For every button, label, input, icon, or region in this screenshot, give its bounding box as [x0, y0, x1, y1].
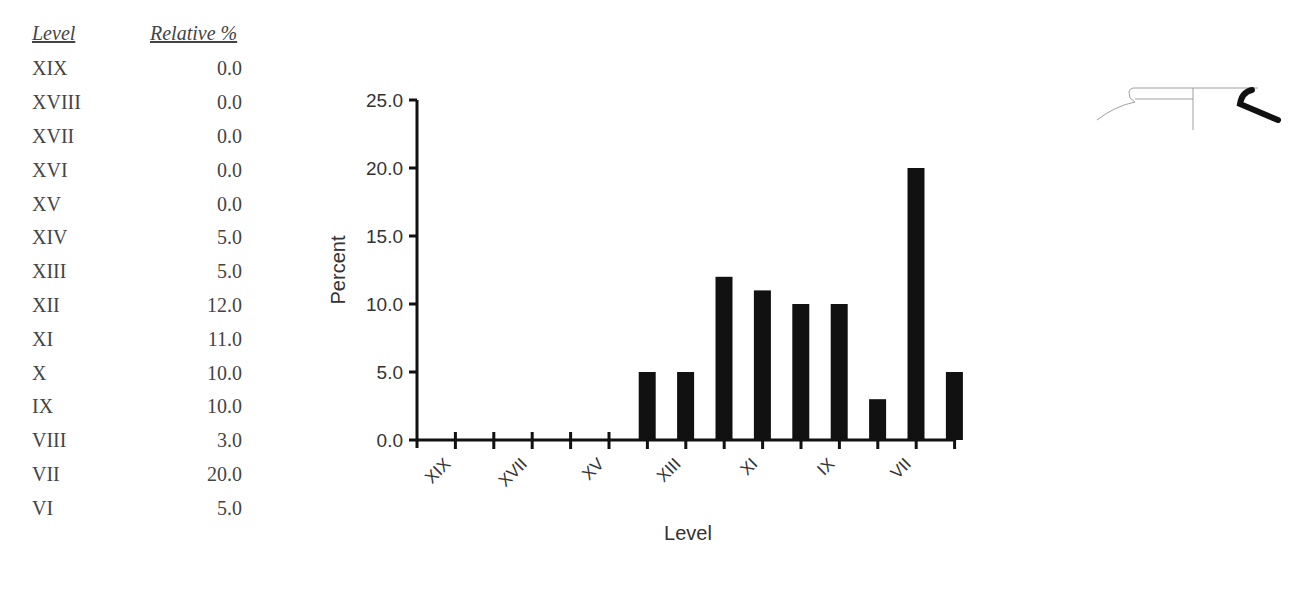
- y-tick-label: 10.0: [366, 294, 403, 315]
- bar: [754, 290, 771, 440]
- bar: [792, 304, 809, 440]
- bar: [639, 372, 656, 440]
- y-tick-label: 0.0: [377, 430, 403, 451]
- x-tick-label: XI: [737, 454, 762, 479]
- x-tick-label: XV: [578, 454, 608, 484]
- x-axis: XIXXVIIXVXIIIXIIXVII: [417, 432, 956, 491]
- x-tick-label: XIII: [653, 454, 684, 485]
- bars: [639, 168, 963, 440]
- bar: [908, 168, 925, 440]
- x-tick-label: XIX: [421, 454, 454, 487]
- rim-sherd-profile-drawing: [1090, 80, 1300, 140]
- x-tick-label: XVII: [495, 454, 531, 490]
- y-axis-label: Percent: [327, 235, 349, 304]
- x-axis-label: Level: [664, 522, 712, 544]
- y-tick-label: 15.0: [366, 226, 403, 247]
- y-tick-label: 25.0: [366, 90, 403, 111]
- bar: [677, 372, 694, 440]
- x-tick-label: VII: [887, 454, 915, 482]
- x-tick-label: IX: [813, 454, 838, 479]
- y-tick-label: 5.0: [377, 362, 403, 383]
- bar: [716, 277, 733, 440]
- y-tick-label: 20.0: [366, 158, 403, 179]
- bar: [946, 372, 963, 440]
- bar: [831, 304, 848, 440]
- bar-chart: Percent 25.020.015.010.05.00.0 XIXXVIIXV…: [0, 0, 1000, 589]
- y-axis: 25.020.015.010.05.00.0: [366, 90, 417, 451]
